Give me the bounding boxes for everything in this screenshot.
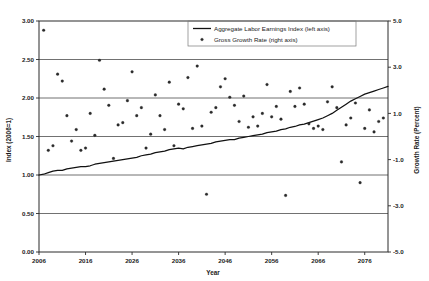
scatter-point [363, 127, 366, 130]
scatter-point [121, 121, 124, 124]
scatter-point [317, 125, 320, 128]
scatter-point [233, 104, 236, 107]
scatter-point [294, 105, 297, 108]
scatter-point [289, 90, 292, 93]
gridlines [39, 60, 388, 214]
y-tick-label-3: 1.50 [22, 133, 35, 140]
scatter-point [354, 102, 357, 105]
scatter-point [98, 59, 101, 62]
y-tick-label-1: 0.50 [22, 210, 35, 217]
scatter-point [247, 126, 250, 129]
scatter-point [56, 73, 59, 76]
y2-tick-label-2: -1.0 [393, 156, 404, 163]
x-axis-ticks: 20062016202620362046205620662076 [32, 252, 372, 264]
x-axis-title: Year [206, 269, 220, 276]
scatter-point [80, 149, 83, 152]
scatter-point [163, 128, 166, 131]
x-tick-label-0: 2006 [32, 257, 46, 264]
x-tick-label-6: 2066 [311, 257, 325, 264]
scatter-point [42, 29, 45, 32]
scatter-point [126, 99, 129, 102]
scatter-point [205, 193, 208, 196]
scatter-point [373, 131, 376, 134]
scatter-point [238, 120, 241, 123]
secondary-y-axis-ticks: -5.0-3.0-1.01.03.05.0 [388, 17, 404, 255]
x-tick-label-3: 2036 [172, 257, 186, 264]
scatter-point [154, 94, 157, 97]
scatter-point [93, 134, 96, 137]
y-tick-label-0: 0.00 [22, 248, 35, 255]
line-series-layer [39, 86, 388, 175]
scatter-point [242, 95, 245, 98]
x-tick-label-2: 2026 [125, 257, 139, 264]
scatter-point [201, 125, 204, 128]
line-series-aggregate-labor-earnings-index [39, 86, 388, 175]
scatter-point [168, 81, 171, 84]
y-tick-label-6: 3.00 [22, 17, 35, 24]
scatter-point [75, 128, 78, 131]
scatter-point [52, 144, 55, 147]
scatter-point [298, 87, 301, 90]
scatter-point [224, 77, 227, 80]
y2-tick-label-3: 1.0 [393, 110, 402, 117]
scatter-point [214, 106, 217, 109]
scatter-point [196, 65, 199, 68]
scatter-point [145, 147, 148, 150]
scatter-point [256, 125, 259, 128]
scatter-point [303, 103, 306, 106]
legend-point-swatch [201, 38, 204, 41]
scatter-point [275, 105, 278, 108]
scatter-point [84, 147, 87, 150]
scatter-point [377, 120, 380, 123]
scatter-point [340, 161, 343, 164]
scatter-point [345, 124, 348, 127]
y-tick-label-2: 1.00 [22, 171, 35, 178]
y-tick-label-5: 2.50 [22, 56, 35, 63]
scatter-point [210, 111, 213, 114]
scatter-point [312, 127, 315, 130]
legend-item-label-index: Aggregate Labor Earnings Index (left axi… [214, 25, 330, 32]
secondary-y-axis-title: Growth Rate (Percent) [413, 106, 421, 173]
scatter-point [191, 127, 194, 130]
y2-tick-label-1: -3.0 [393, 202, 404, 209]
scatter-point [368, 109, 371, 112]
scatter-point [308, 122, 311, 125]
chart-legend: Aggregate Labor Earnings Index (left axi… [188, 21, 356, 46]
scatter-point [270, 116, 273, 119]
scatter-point [261, 112, 264, 115]
scatter-point [117, 124, 120, 127]
scatter-point [284, 194, 287, 197]
y2-tick-label-4: 3.0 [393, 63, 402, 70]
scatter-point [89, 112, 92, 115]
scatter-point [326, 101, 329, 104]
y2-tick-label-5: 5.0 [393, 17, 402, 24]
scatter-point [149, 133, 152, 136]
scatter-point [335, 106, 338, 109]
scatter-point [47, 149, 50, 152]
scatter-point [66, 114, 69, 117]
scatter-point [140, 106, 143, 109]
scatter-point [322, 128, 325, 131]
scatter-point [177, 103, 180, 106]
chart-canvas: 20062016202620362046205620662076 0.000.5… [0, 0, 429, 281]
scatter-point [70, 140, 73, 143]
x-tick-label-7: 2076 [358, 257, 372, 264]
scatter-point [103, 88, 106, 91]
scatter-point [228, 96, 231, 99]
scatter-point [135, 114, 138, 117]
scatter-point [182, 107, 185, 110]
x-tick-label-4: 2046 [218, 257, 232, 264]
scatter-point [382, 117, 385, 120]
legend-item-label-growth: Gross Growth Rate (right axis) [214, 36, 298, 43]
y-tick-label-4: 2.00 [22, 94, 35, 101]
y2-tick-label-0: -5.0 [393, 248, 404, 255]
x-tick-label-1: 2016 [79, 257, 93, 264]
y-axis-title: Index (2006=1) [5, 118, 13, 162]
scatter-point [131, 70, 134, 73]
y-axis-ticks: 0.000.501.001.502.002.503.00 [22, 17, 39, 255]
chart-container: 20062016202620362046205620662076 0.000.5… [0, 0, 429, 281]
scatter-point [331, 85, 334, 88]
scatter-point [173, 144, 176, 147]
scatter-point [159, 114, 162, 117]
scatter-point [359, 181, 362, 184]
